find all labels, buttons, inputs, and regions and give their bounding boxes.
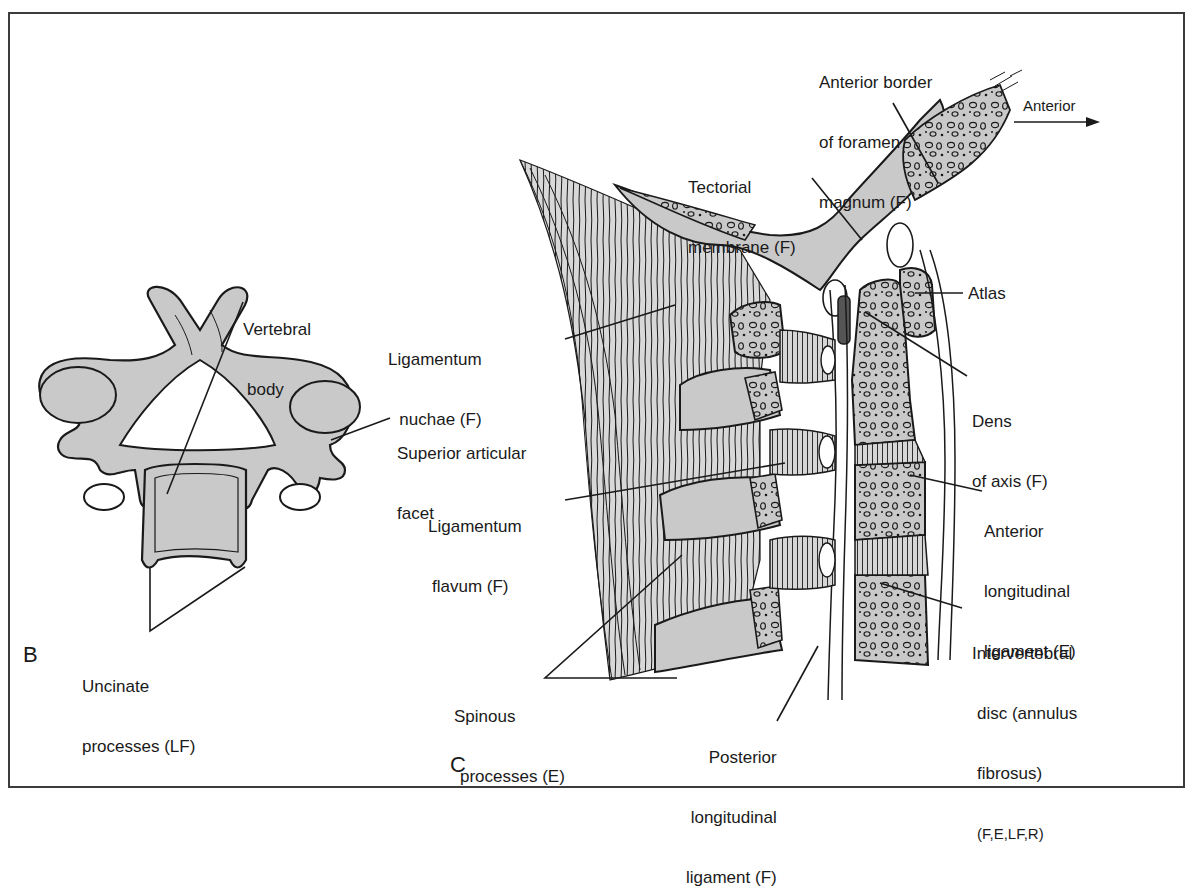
label-anterior-direction: Anterior <box>1023 97 1076 115</box>
cervical-vertebra-drawing <box>39 287 360 568</box>
label-line: (F,E,LF,R) <box>972 824 1077 844</box>
label-line: Ligamentum <box>428 517 522 537</box>
label-line: Posterior <box>686 748 777 768</box>
label-line: of foramen <box>819 133 932 153</box>
label-ligamentum-nuchae: Ligamentum nuchae (F) <box>388 310 482 450</box>
label-line: Intervertebral <box>972 644 1077 664</box>
label-line: Uncinate <box>82 677 195 697</box>
label-posterior-longitudinal-ligament: Posterior longitudinal ligament (F) <box>686 708 777 890</box>
label-line: membrane (F) <box>688 238 796 258</box>
label-line: processes (LF) <box>82 737 195 757</box>
label-line: fibrosus) <box>972 764 1077 784</box>
label-line: body <box>243 380 311 400</box>
label-spinous-processes: Spinous processes (E) <box>454 667 565 807</box>
label-line: longitudinal <box>984 582 1076 602</box>
leader-uncinate-processes <box>150 567 245 631</box>
label-line: Vertebral <box>243 320 311 340</box>
label-ligamentum-flavum: Ligamentum flavum (F) <box>428 477 522 617</box>
leader-posterior-longitudinal-ligament <box>777 646 818 721</box>
label-line: Anterior <box>984 522 1076 542</box>
label-atlas: Atlas <box>968 284 1006 304</box>
label-line: Anterior border <box>819 73 932 93</box>
label-line: Dens <box>972 412 1048 432</box>
label-line: magnum (F) <box>819 193 932 213</box>
label-anterior-border-foramen-magnum: Anterior border of foramen magnum (F) <box>819 33 932 233</box>
label-line: processes (E) <box>454 767 565 787</box>
panel-letter-c: C <box>450 753 466 777</box>
arrow-head-icon <box>1086 117 1100 127</box>
label-vertebral-body: Vertebral body <box>243 280 311 420</box>
label-line: Spinous <box>454 707 565 727</box>
label-line: longitudinal <box>686 808 777 828</box>
label-intervertebral-disc: Intervertebral disc (annulus fibrosus) (… <box>972 604 1077 864</box>
panel-letter-b: B <box>23 643 38 667</box>
label-line: nuchae (F) <box>388 410 482 430</box>
label-uncinate-processes: Uncinate processes (LF) <box>82 637 195 777</box>
label-line: flavum (F) <box>428 577 522 597</box>
label-line: ligament (F) <box>686 868 777 888</box>
label-line: disc (annulus <box>972 704 1077 724</box>
label-line: Tectorial <box>688 178 796 198</box>
label-tectorial-membrane: Tectorial membrane (F) <box>688 138 796 278</box>
label-line: Ligamentum <box>388 350 482 370</box>
